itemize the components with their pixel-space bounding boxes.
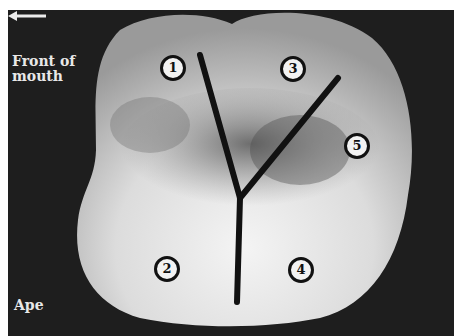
cusp-marker-4: 4 (288, 257, 314, 283)
cusp-marker-2: 2 (154, 256, 180, 282)
fissure-line-stem (237, 198, 240, 302)
specimen-label: Ape (14, 298, 44, 313)
tooth-photograph: Front of mouth Ape 1 2 3 4 5 (8, 10, 454, 336)
cusp-marker-5: 5 (344, 133, 370, 159)
cusp-marker-1: 1 (160, 55, 186, 81)
left-arrow-icon (8, 10, 48, 22)
direction-label: Front of mouth (12, 54, 82, 84)
cusp-marker-3: 3 (280, 56, 306, 82)
